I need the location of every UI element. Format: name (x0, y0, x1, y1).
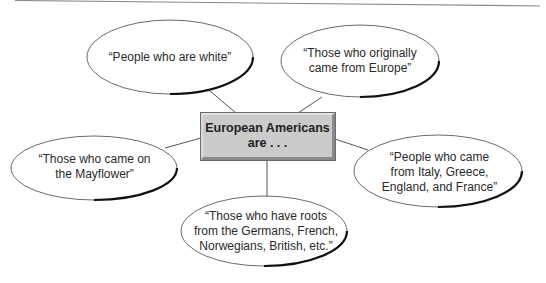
connector-mayflower (165, 138, 201, 148)
node-mayflower-line-2: the Mayflower” (55, 167, 134, 182)
node-europe-line-2: came from Europe” (309, 61, 412, 76)
node-countries-line-1: “People who came (390, 150, 489, 165)
node-countries-line-2: from Italy, Greece, (391, 165, 489, 180)
center-title: European Americans (205, 121, 330, 136)
center-subtitle: are . . . (248, 136, 288, 151)
node-europe-label: “Those who originally came from Europe” (285, 42, 435, 80)
connector-white (210, 91, 236, 113)
node-roots-line-2: from the Germans, French, (194, 224, 338, 239)
node-mayflower-label: “Those who came on the Mayflower” (17, 150, 172, 184)
node-europe-line-1: “Those who originally (303, 46, 416, 61)
top-rule (15, 1, 540, 7)
node-mayflower-line-1: “Those who came on (38, 152, 150, 167)
node-white-label: “People who are white” (95, 40, 245, 74)
center-concept-box: European Americans are . . . (201, 113, 335, 160)
node-white-line-1: “People who are white” (109, 50, 232, 65)
node-countries-line-3: England, and France” (382, 180, 497, 195)
node-countries-label: “People who came from Italy, Greece, Eng… (362, 148, 517, 196)
node-roots-label: “Those who have roots from the Germans, … (186, 207, 346, 255)
connector-europe (298, 97, 322, 113)
node-roots-line-1: “Those who have roots (205, 209, 327, 224)
node-roots-line-3: Norwegians, British, etc.” (199, 239, 332, 254)
